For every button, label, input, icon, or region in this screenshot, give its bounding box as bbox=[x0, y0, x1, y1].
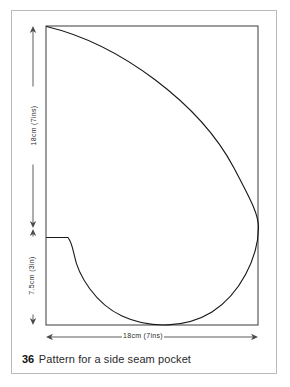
figure-caption: 36 Pattern for a side seam pocket bbox=[22, 351, 262, 367]
pattern-bounding-box bbox=[46, 26, 258, 325]
dimension-label-width-bottom: 18cm (7ins) bbox=[122, 332, 164, 339]
dimension-label-height-lower: 7.5cm (3in) bbox=[28, 237, 35, 315]
pattern-diagram bbox=[0, 0, 290, 387]
dimension-label-height-main: 18cm (7ins) bbox=[30, 87, 37, 165]
pattern-diagram-svg bbox=[0, 0, 290, 387]
figure-page: 18cm (7ins) 7.5cm (3in) 18cm (7ins) 36 P… bbox=[0, 0, 290, 387]
figure-caption-text: Pattern for a side seam pocket bbox=[39, 353, 191, 365]
pocket-pattern-outline bbox=[47, 27, 259, 325]
figure-caption-number: 36 bbox=[22, 353, 34, 365]
